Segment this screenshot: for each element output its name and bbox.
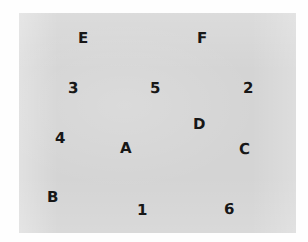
map-label-b: B [47,190,58,205]
map-label-1: 1 [137,203,147,218]
diagram-panel: EF352D4ACB16 [19,13,296,233]
map-label-2: 2 [243,81,253,96]
map-label-6: 6 [224,202,234,217]
map-label-f: F [197,31,207,46]
figure-canvas: EF352D4ACB16 [0,0,308,242]
map-label-c: C [239,142,250,157]
map-label-d: D [193,117,205,132]
map-label-e: E [78,31,88,46]
map-label-3: 3 [68,81,78,96]
map-label-a: A [120,141,132,156]
map-label-4: 4 [55,131,65,146]
map-label-5: 5 [150,81,160,96]
